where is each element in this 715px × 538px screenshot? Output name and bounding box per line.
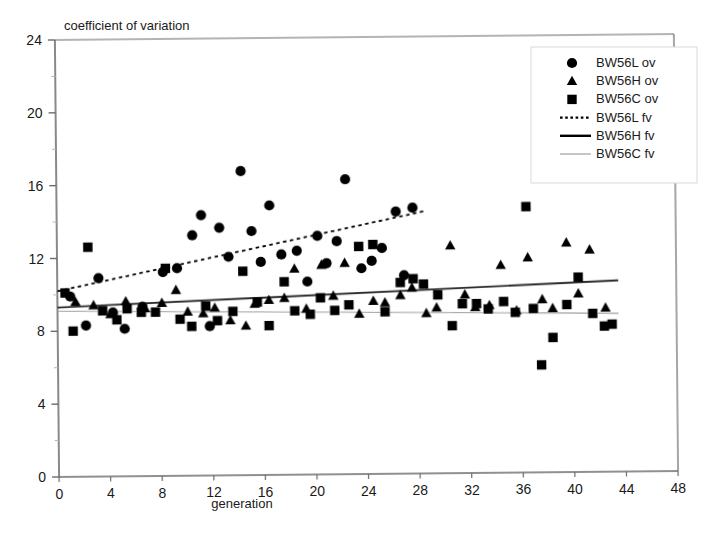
y-axis-tick-label: 16 (28, 178, 44, 194)
data-point (228, 307, 237, 316)
data-point (214, 223, 224, 233)
data-point (344, 300, 353, 309)
data-point (367, 256, 377, 266)
data-point (380, 307, 389, 316)
data-point (433, 290, 442, 299)
data-point (391, 206, 401, 216)
legend-item-label: BW56L ov (596, 55, 656, 70)
data-point (112, 315, 121, 324)
data-point (83, 242, 92, 251)
data-point (458, 299, 467, 308)
x-axis-title: generation (211, 496, 272, 511)
y-axis-title: coefficient of variation (64, 18, 190, 33)
data-point (151, 307, 160, 316)
data-point (312, 231, 322, 241)
data-point (290, 306, 299, 315)
data-point (196, 210, 206, 220)
data-point (81, 320, 91, 330)
data-point (330, 306, 339, 315)
data-point (120, 324, 130, 334)
data-point (588, 309, 597, 318)
legend-item-label: BW56H ov (596, 73, 659, 88)
data-point (483, 304, 492, 313)
y-axis-tick-label: 12 (28, 251, 44, 267)
x-axis-tick-label: 32 (464, 482, 480, 498)
data-point (187, 322, 196, 331)
data-point (472, 299, 481, 308)
y-axis-tick-label: 8 (37, 323, 45, 339)
x-axis-tick-label: 8 (159, 485, 167, 501)
legend: BW56L ovBW56H ovBW56C ovBW56L fvBW56H fv… (531, 47, 697, 183)
data-point (354, 242, 363, 251)
y-axis-tick-label: 0 (38, 469, 46, 485)
legend-item-label: BW56H fv (596, 128, 655, 143)
data-point (279, 277, 288, 286)
data-point (246, 226, 256, 236)
legend-item-label: BW56C ov (596, 91, 659, 106)
data-point (253, 297, 262, 306)
legend-item-label: BW56L fv (596, 110, 652, 125)
data-point (340, 174, 350, 184)
x-axis-tick-label: 48 (670, 480, 686, 496)
data-point (511, 308, 520, 317)
data-point (161, 264, 170, 273)
data-point (98, 306, 107, 315)
data-point (407, 203, 417, 213)
x-axis-tick-label: 44 (619, 481, 635, 497)
data-point (292, 246, 302, 256)
data-point (93, 273, 103, 283)
x-axis-tick-label: 0 (55, 486, 63, 502)
data-point (607, 319, 616, 328)
data-point (276, 249, 286, 259)
data-point (264, 321, 273, 330)
data-point (316, 293, 325, 302)
data-point (499, 297, 508, 306)
data-point (548, 333, 557, 342)
data-point (356, 263, 366, 273)
legend-marker-circle-icon (567, 58, 577, 68)
data-point (122, 304, 131, 313)
y-axis-tick-label: 20 (27, 105, 43, 121)
data-point (306, 310, 315, 319)
x-axis-tick-label: 24 (361, 483, 377, 499)
data-point (238, 267, 247, 276)
x-axis-tick-label: 4 (107, 485, 115, 501)
scatter-plot-svg: 0481216202404812162024283236404448 coeff… (0, 0, 715, 538)
data-point (377, 243, 387, 253)
legend-item-label: BW56C fv (596, 146, 655, 161)
data-point (175, 314, 184, 323)
data-point (408, 274, 417, 283)
data-point (529, 304, 538, 313)
data-point (201, 301, 210, 310)
chart-figure: 0481216202404812162024283236404448 coeff… (0, 0, 715, 538)
x-axis-tick-label: 40 (567, 481, 583, 497)
data-point (521, 202, 530, 211)
data-point (332, 236, 342, 246)
data-point (213, 316, 222, 325)
data-point (302, 276, 312, 286)
legend-marker-square-icon (567, 95, 576, 104)
data-point (562, 300, 571, 309)
x-axis-tick-label: 36 (516, 481, 532, 497)
data-point (187, 230, 197, 240)
y-axis-tick-label: 24 (26, 32, 42, 48)
data-point (60, 288, 69, 297)
data-point (172, 263, 182, 273)
data-point (537, 360, 546, 369)
data-point (368, 240, 377, 249)
data-point (223, 252, 233, 262)
data-point (448, 321, 457, 330)
x-axis-tick-label: 20 (309, 483, 325, 499)
data-point (419, 279, 428, 288)
data-point (68, 326, 77, 335)
x-axis-tick-label: 28 (413, 482, 429, 498)
data-point (137, 308, 146, 317)
y-axis-tick-label: 4 (38, 396, 46, 412)
data-point (235, 166, 245, 176)
data-point (573, 272, 582, 281)
data-point (396, 278, 405, 287)
data-point (256, 257, 266, 267)
data-point (264, 200, 274, 210)
